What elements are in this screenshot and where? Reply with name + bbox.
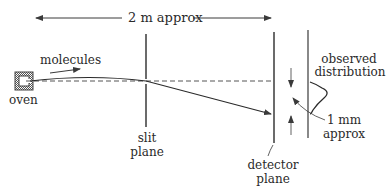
mm-label-line1: 1 mm <box>326 114 362 127</box>
molecules-arrow <box>50 69 80 73</box>
oven-label: oven <box>9 94 38 107</box>
mm-label-line2: approx <box>322 128 366 141</box>
distance-label: 2 m approx <box>128 11 203 24</box>
slit-label-line1: slit <box>134 132 160 145</box>
detector-label-line1: detector <box>244 159 302 172</box>
stern-gerlach-diagram: 2 m approx molecules oven slit plane det… <box>0 0 389 192</box>
molecules-label: molecules <box>40 54 101 67</box>
detector-label-line2: plane <box>250 173 296 186</box>
observed-label-line2: distribution <box>312 66 388 79</box>
detector-pointer <box>268 145 273 156</box>
molecule-trajectory <box>30 78 271 115</box>
diagram-graphics <box>0 0 389 192</box>
gaussian-curve-icon <box>310 82 327 114</box>
slit-label-line2: plane <box>128 146 166 159</box>
